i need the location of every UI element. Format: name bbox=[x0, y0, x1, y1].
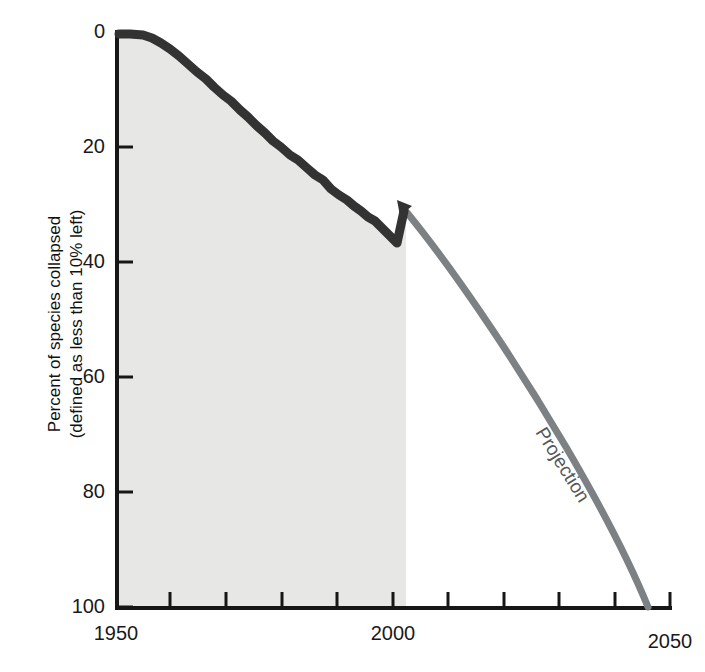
shaded-area-fill bbox=[117, 34, 406, 607]
projection-line bbox=[404, 209, 648, 607]
chart-container: 0 20 40 60 80 100 1950 2000 2050 Percent… bbox=[0, 0, 705, 672]
chart-svg bbox=[0, 0, 705, 672]
y-axis-title-line-2: (defined as less than 10% left) bbox=[66, 154, 88, 494]
y-axis-title: Percent of species collapsed (defined as… bbox=[44, 154, 88, 494]
x-tick-label-2050: 2050 bbox=[624, 630, 705, 653]
x-tick-label-2000: 2000 bbox=[347, 622, 439, 645]
y-tick-label-0: 0 bbox=[63, 20, 105, 43]
y-axis-title-line-1: Percent of species collapsed bbox=[44, 154, 66, 494]
y-tick-label-100: 100 bbox=[52, 595, 105, 618]
x-tick-label-1950: 1950 bbox=[70, 622, 162, 645]
